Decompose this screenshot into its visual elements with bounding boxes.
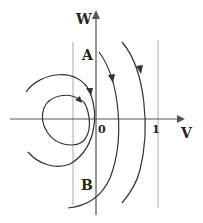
outer-open-orbit (26, 75, 95, 167)
phase-plane-diagram: W A B 0 1 V (0, 0, 203, 223)
point-a-label: A (82, 48, 93, 62)
w-axis-label: W (76, 12, 92, 26)
origin-label: 0 (98, 124, 106, 135)
outer-orbit-arrow-icon (86, 88, 93, 96)
tick-one-label: 1 (152, 124, 160, 135)
diagram-svg (0, 0, 203, 223)
trajectory-ab-arrow-icon (108, 74, 115, 83)
v-axis-arrow-icon (177, 115, 185, 123)
v-axis-label: V (181, 126, 192, 140)
point-b-label: B (81, 178, 93, 192)
w-axis-arrow-icon (92, 10, 100, 19)
inner-closed-orbit (42, 95, 89, 145)
